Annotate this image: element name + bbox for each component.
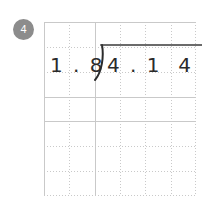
worksheet-grid	[44, 22, 196, 196]
grid-bottom-edge	[44, 195, 196, 196]
problem-number-badge: 4	[13, 19, 34, 40]
grid-right-edge	[195, 22, 196, 196]
